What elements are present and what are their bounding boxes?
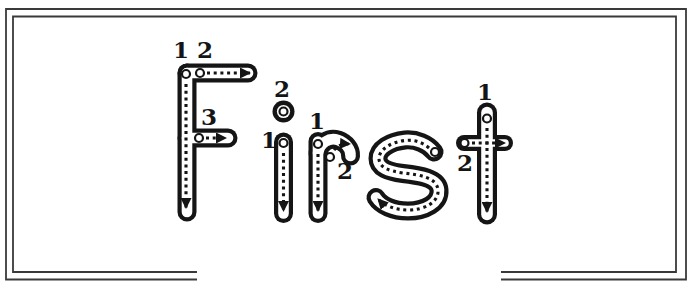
stroke-number-label: 2 xyxy=(457,149,473,176)
letter-F-outline xyxy=(187,73,248,212)
stroke-start-marker xyxy=(431,148,439,156)
stroke-start-marker xyxy=(195,134,203,142)
tracing-word-graphic: 1 2 3 1 2 xyxy=(0,0,693,295)
stroke-start-marker xyxy=(461,139,469,147)
letter-i-outline xyxy=(273,101,295,214)
letter-t: 1 2 xyxy=(457,78,505,215)
stroke-number-label: 1 xyxy=(173,36,189,63)
stroke-number-label: 2 xyxy=(197,36,213,63)
letter-r: 1 2 xyxy=(309,107,353,214)
letter-s xyxy=(376,140,439,211)
stroke-number-label: 1 xyxy=(261,126,277,153)
stroke-start-marker xyxy=(326,153,334,161)
letter-F: 1 2 3 xyxy=(173,36,250,212)
stroke-number-label: 1 xyxy=(309,107,325,134)
stroke-start-marker xyxy=(314,140,322,148)
tracing-worksheet: 1 2 3 1 2 xyxy=(0,0,693,295)
stroke-start-marker xyxy=(196,69,204,77)
stroke-number-label: 3 xyxy=(201,103,217,130)
stroke-number-label: 2 xyxy=(274,75,290,102)
letter-i: 1 2 xyxy=(261,75,295,214)
stroke-start-marker xyxy=(182,70,190,78)
stroke-start-marker xyxy=(483,115,491,123)
stroke-start-marker xyxy=(280,108,288,116)
stroke-number-label: 2 xyxy=(337,157,353,184)
stroke-start-marker xyxy=(280,139,288,147)
letter-s-outline xyxy=(376,140,439,211)
stroke-number-label: 1 xyxy=(477,78,493,105)
